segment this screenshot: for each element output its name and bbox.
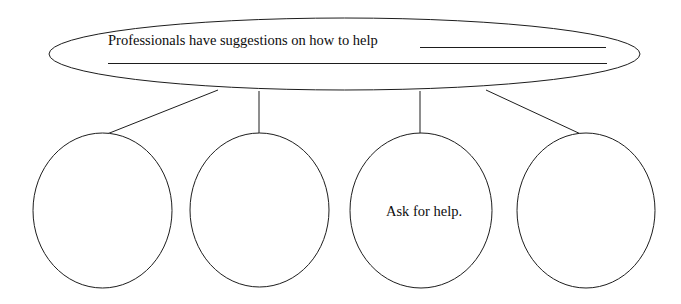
diagram-canvas: Professionals have suggestions on how to… bbox=[0, 0, 681, 304]
connector-to-child-4 bbox=[486, 90, 585, 136]
connector-to-child-1 bbox=[102, 90, 218, 136]
root-prompt-text: Professionals have suggestions on how to… bbox=[108, 32, 378, 48]
diagram-svg: Professionals have suggestions on how to… bbox=[0, 0, 681, 304]
child-ellipse-4[interactable] bbox=[517, 133, 655, 288]
child-ellipse-1[interactable] bbox=[33, 133, 172, 288]
child-ellipse-2[interactable] bbox=[190, 133, 329, 287]
child-label-3: Ask for help. bbox=[386, 203, 462, 219]
root-ellipse[interactable] bbox=[49, 18, 640, 90]
